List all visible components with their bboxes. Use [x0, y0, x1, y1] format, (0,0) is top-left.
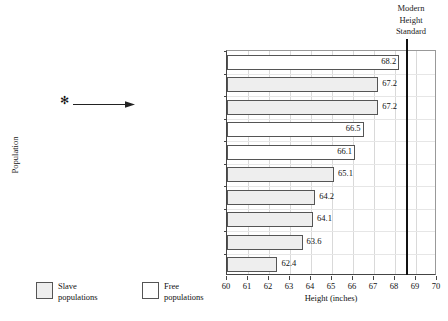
bar-row: 64.2Africans imported into U.S.: [227, 186, 435, 209]
modern-height-standard-line-1: Modern: [378, 3, 444, 15]
legend-label-line-1: Slave: [58, 281, 98, 292]
modern-height-standard-line-2: Height: [378, 15, 444, 27]
x-axis-tick: [226, 276, 227, 280]
bar-row: 63.6Cuban-born slaves, 1855–59: [227, 231, 435, 254]
y-axis-tick: [224, 51, 227, 52]
arrow-right-icon: [73, 101, 135, 108]
bar-value-label: 63.6: [303, 236, 322, 246]
bar-slave[interactable]: [227, 257, 277, 272]
bar-value-label: 66.1: [337, 146, 355, 156]
legend-label-line-2: populations: [164, 292, 204, 303]
x-axis-tick: [268, 276, 269, 280]
y-axis-tick: [224, 186, 227, 187]
bar-value-label: 64.1: [313, 213, 332, 223]
y-axis-tick: [224, 141, 227, 142]
x-axis-tick: [247, 276, 248, 280]
asterisk-icon: ✻: [60, 94, 69, 107]
x-axis-title: Height (inches): [226, 293, 436, 303]
bar-free[interactable]: [227, 122, 364, 137]
bar-value-label: 67.2: [378, 101, 397, 111]
x-axis-tick: [331, 276, 332, 280]
modern-height-standard-caption: Modern Height Standard: [378, 3, 444, 38]
bar-row: 68.2U.S.-born northern whites, 1863–65: [227, 51, 435, 74]
bar-row: 67.2Slaves in British nonsugar colonies,…: [227, 74, 435, 97]
bar-row: 66.1British Royal Marines, 1827–29: [227, 141, 435, 164]
bar-value-label: 65.1: [334, 168, 353, 178]
modern-height-standard-line-3: Standard: [378, 26, 444, 38]
bar-slave[interactable]: [227, 167, 334, 182]
y-axis-tick: [224, 119, 227, 120]
legend-label: Freepopulations: [164, 281, 204, 302]
legend-label: Slavepopulations: [58, 281, 98, 302]
bar-row: 62.4African slaves in Cuba, 1855–59: [227, 254, 435, 277]
y-axis-title: Population: [10, 110, 20, 200]
bar-slave[interactable]: [227, 100, 378, 115]
bar-slave[interactable]: [227, 235, 303, 250]
bar-free[interactable]: [227, 55, 399, 70]
x-axis-tick: [436, 276, 437, 280]
x-axis-tick: [289, 276, 290, 280]
bar-value-label: 64.2: [315, 191, 334, 201]
bar-slave[interactable]: [227, 77, 378, 92]
bar-slave[interactable]: [227, 190, 315, 205]
legend-label-line-2: populations: [58, 292, 98, 303]
x-axis-tick: [394, 276, 395, 280]
legend-swatch-slave: [36, 282, 53, 299]
bar-slave[interactable]: [227, 212, 313, 227]
x-axis-tick: [373, 276, 374, 280]
bar-row: 67.2U.S. slaves, 1811–60: [227, 96, 435, 119]
y-axis-tick: [224, 209, 227, 210]
bar-chart-figure: Modern Height Standard Population 68.2U.…: [0, 0, 448, 321]
x-axis-tick-label: 70: [424, 281, 448, 291]
bar-value-label: 62.4: [277, 258, 296, 268]
legend-label-line-1: Free: [164, 281, 204, 292]
y-axis-tick: [224, 231, 227, 232]
legend: SlavepopulationsFreepopulations: [36, 280, 226, 310]
bar-value-label: 67.2: [378, 78, 397, 88]
y-axis-tick: [224, 254, 227, 255]
x-axis-tick: [415, 276, 416, 280]
x-axis-tick: [352, 276, 353, 280]
bar-value-label: 66.5: [346, 123, 364, 133]
x-axis-tick: [310, 276, 311, 280]
bar-value-label: 68.2: [381, 56, 399, 66]
bar-row: 66.5British urban artisans, 1883: [227, 119, 435, 142]
bar-row: 64.1Guyana-born slaves, 1819: [227, 209, 435, 232]
pointer-annotation: ✻: [60, 95, 140, 109]
bar-free[interactable]: [227, 145, 355, 160]
legend-swatch-free: [142, 282, 159, 299]
y-axis-tick: [224, 74, 227, 75]
y-axis-tick: [224, 96, 227, 97]
y-axis-tick: [224, 164, 227, 165]
plot-area: 68.2U.S.-born northern whites, 1863–6567…: [226, 50, 436, 275]
bar-row: 65.1Trinidad-born slaves, 1813: [227, 164, 435, 187]
modern-height-standard-line: [406, 39, 408, 275]
